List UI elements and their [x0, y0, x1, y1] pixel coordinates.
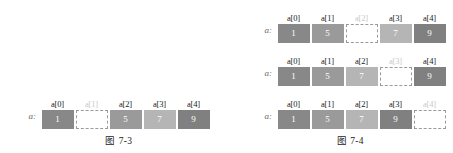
array-cell-group: a[2]7 [345, 56, 378, 86]
array-cell-value: 1 [278, 67, 310, 86]
array-pointer-label: a: [248, 26, 277, 43]
array-index-label: a[4] [423, 13, 436, 24]
array-row: a:a[0]1a[1]5a[2]7a[3]a[4]9 [226, 43, 453, 86]
array-index-label: a[1] [321, 56, 334, 67]
array-cell-empty [76, 110, 108, 129]
array-index-label: a[3] [389, 99, 402, 110]
array-index-label: a[3] [389, 13, 402, 24]
array-index-label: a[4] [187, 99, 200, 110]
array-index-label: a[1] [85, 99, 98, 110]
array-cell-empty [380, 67, 412, 86]
array-cell-value: 5 [312, 110, 344, 129]
array-cell-value: 9 [414, 67, 446, 86]
array-cell-value: 9 [380, 110, 412, 129]
array-row: a:a[0]1a[1]5a[2]7a[3]9a[4] [226, 86, 453, 129]
array-pointer-label: a: [248, 69, 277, 86]
array-index-label: a[1] [321, 13, 334, 24]
array-index-label: a[0] [287, 99, 300, 110]
array-cell-value: 9 [178, 110, 210, 129]
array-cells: a[0]1a[1]5a[2]7a[3]9a[4] [277, 99, 446, 129]
array-cell-value: 9 [414, 24, 446, 43]
array-pointer-label: a: [12, 112, 41, 129]
array-cell-value: 5 [110, 110, 142, 129]
array-cell-empty [346, 24, 378, 43]
array-row: a:a[0]1a[1]a[2]5a[3]7a[4]9 [0, 86, 226, 129]
array-cell-value: 1 [42, 110, 74, 129]
array-cell-group: a[3]9 [379, 99, 412, 129]
array-cell-value: 7 [380, 24, 412, 43]
array-cell-group: a[2] [345, 13, 378, 43]
figure-7-4: a:a[0]1a[1]5a[2]a[3]7a[4]9a:a[0]1a[1]5a[… [226, 0, 453, 147]
array-cells: a[0]1a[1]a[2]5a[3]7a[4]9 [41, 99, 210, 129]
array-cell-group: a[4]9 [413, 56, 446, 86]
figure-caption: 图 7-4 [226, 133, 453, 147]
array-cell-value: 1 [278, 110, 310, 129]
array-cell-group: a[2]5 [109, 99, 142, 129]
array-cell-value: 7 [346, 110, 378, 129]
array-rows-container: a:a[0]1a[1]a[2]5a[3]7a[4]9 [0, 86, 226, 129]
array-cell-group: a[3] [379, 56, 412, 86]
array-cell-group: a[0]1 [277, 13, 310, 43]
array-row: a:a[0]1a[1]5a[2]a[3]7a[4]9 [226, 0, 453, 43]
array-cell-value: 1 [278, 24, 310, 43]
array-cell-group: a[0]1 [277, 56, 310, 86]
array-cell-group: a[4]9 [177, 99, 210, 129]
array-cell-group: a[3]7 [379, 13, 412, 43]
array-index-label: a[0] [51, 99, 64, 110]
array-cell-group: a[4] [413, 99, 446, 129]
array-index-label: a[4] [423, 56, 436, 67]
array-cell-group: a[0]1 [277, 99, 310, 129]
array-index-label: a[2] [355, 99, 368, 110]
array-cell-group: a[3]7 [143, 99, 176, 129]
array-cell-value: 7 [144, 110, 176, 129]
array-cell-value: 5 [312, 67, 344, 86]
array-index-label: a[0] [287, 56, 300, 67]
array-index-label: a[2] [355, 56, 368, 67]
array-index-label: a[2] [355, 13, 368, 24]
figure-7-3: a:a[0]1a[1]a[2]5a[3]7a[4]9 图 7-3 [0, 86, 226, 147]
array-cell-group: a[1] [75, 99, 108, 129]
array-cell-empty [414, 110, 446, 129]
array-cell-group: a[4]9 [413, 13, 446, 43]
array-rows-container: a:a[0]1a[1]5a[2]a[3]7a[4]9a:a[0]1a[1]5a[… [226, 0, 453, 129]
array-cell-group: a[1]5 [311, 99, 344, 129]
array-index-label: a[1] [321, 99, 334, 110]
array-cell-value: 5 [312, 24, 344, 43]
array-cell-group: a[1]5 [311, 56, 344, 86]
array-index-label: a[3] [389, 56, 402, 67]
array-index-label: a[0] [287, 13, 300, 24]
array-cells: a[0]1a[1]5a[2]7a[3]a[4]9 [277, 56, 446, 86]
array-cell-group: a[2]7 [345, 99, 378, 129]
array-index-label: a[3] [153, 99, 166, 110]
figure-caption: 图 7-3 [0, 133, 226, 147]
array-cell-group: a[1]5 [311, 13, 344, 43]
array-cells: a[0]1a[1]5a[2]a[3]7a[4]9 [277, 13, 446, 43]
array-pointer-label: a: [248, 112, 277, 129]
array-index-label: a[2] [119, 99, 132, 110]
array-cell-value: 7 [346, 67, 378, 86]
array-index-label: a[4] [423, 99, 436, 110]
array-cell-group: a[0]1 [41, 99, 74, 129]
